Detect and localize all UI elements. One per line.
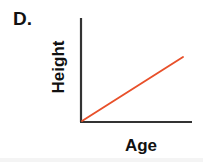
chart-figure: D. Height Age [0, 0, 203, 162]
data-series-line [82, 57, 183, 121]
x-axis-label: Age [125, 137, 157, 154]
y-axis-label: Height [50, 41, 67, 94]
plot-area [0, 0, 203, 162]
